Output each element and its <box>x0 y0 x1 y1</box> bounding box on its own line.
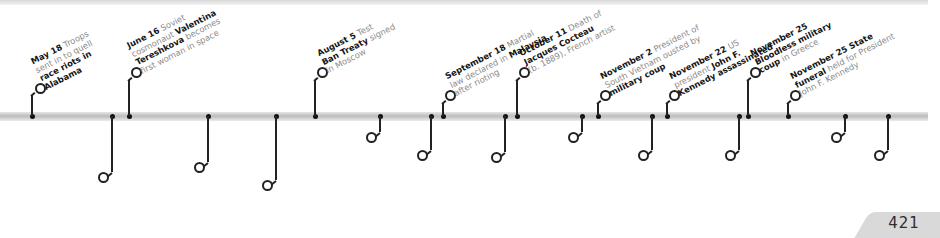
timeline-connector <box>887 116 889 150</box>
page-number: 421 <box>880 212 928 234</box>
page-top-edge <box>0 0 928 5</box>
timeline-connector <box>207 116 209 162</box>
timeline-connector <box>128 80 130 116</box>
timeline-connector <box>111 116 113 172</box>
timeline-connector <box>504 116 506 152</box>
timeline-event-label: October 11 Death ofJacques Cocteau(b. 18… <box>518 7 617 76</box>
timeline-ring-marker <box>638 150 649 161</box>
timeline-ring-marker <box>725 150 736 161</box>
timeline-event-label: June 16 Sovietcosmonaut ValentinaTereshk… <box>126 0 227 76</box>
timeline-connector <box>516 80 518 116</box>
timeline-connector <box>651 116 653 150</box>
timeline-ring-marker <box>568 132 579 143</box>
timeline-connector <box>379 116 381 132</box>
timeline-connector <box>747 80 749 116</box>
timeline-event-label: August 5 TestBan Treaty signedin Moscow <box>316 14 401 76</box>
timeline-ring-marker <box>831 132 842 143</box>
timeline-connector <box>581 116 583 132</box>
timeline-ring-marker <box>194 162 205 173</box>
timeline-ring-marker <box>98 172 109 183</box>
timeline-connector <box>314 80 316 116</box>
timeline-connector <box>844 116 846 132</box>
timeline-ring-marker <box>262 180 273 191</box>
timeline-ring-marker <box>491 152 502 163</box>
timeline-ring-marker <box>417 150 428 161</box>
timeline-ring-marker <box>366 132 377 143</box>
timeline-connector <box>430 116 432 150</box>
timeline-connector <box>275 116 277 180</box>
timeline-ring-marker <box>874 150 885 161</box>
timeline-connector <box>738 116 740 150</box>
timeline-connector <box>31 95 33 116</box>
